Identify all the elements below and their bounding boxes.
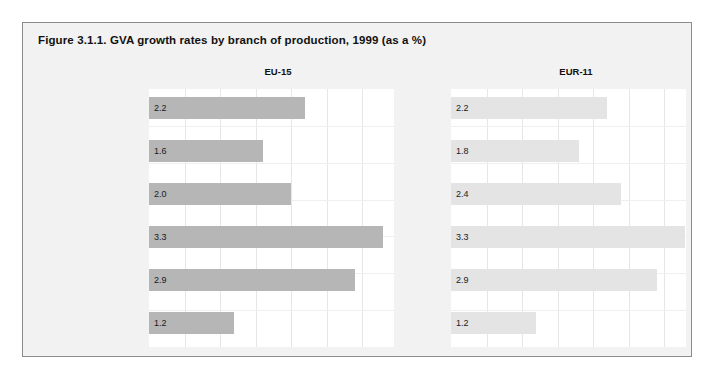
bar-value-label: 2.9 xyxy=(154,269,167,291)
bar-row: 1.2 xyxy=(451,312,686,334)
gridline-vertical xyxy=(664,89,665,347)
bar xyxy=(149,226,383,248)
bar xyxy=(149,183,291,205)
gridline-horizontal xyxy=(451,126,686,127)
gridline-vertical xyxy=(629,89,630,347)
bar-row: 2.2 xyxy=(451,97,686,119)
bar-row: 2.4 xyxy=(451,183,686,205)
gridline-vertical xyxy=(185,89,186,347)
plot-area-eu15: 2.21.62.03.32.91.2 xyxy=(149,89,394,347)
figure-title: Figure 3.1.1. GVA growth rates by branch… xyxy=(38,34,426,46)
bar xyxy=(451,226,685,248)
bar-value-label: 2.9 xyxy=(456,269,469,291)
bar xyxy=(149,269,355,291)
gridline-horizontal xyxy=(149,126,394,127)
bar xyxy=(149,97,305,119)
plot-area-eur11: 2.21.82.43.32.91.2 xyxy=(451,89,686,347)
gridline-vertical xyxy=(522,89,523,347)
bar-row: 2.9 xyxy=(149,269,394,291)
gridline-vertical xyxy=(256,89,257,347)
bar-row: 1.6 xyxy=(149,140,394,162)
bar xyxy=(451,269,657,291)
bar-value-label: 2.0 xyxy=(154,183,167,205)
bar-value-label: 2.2 xyxy=(154,97,167,119)
bar-value-label: 3.3 xyxy=(456,226,469,248)
bar-row: 3.3 xyxy=(451,226,686,248)
bar-value-label: 1.2 xyxy=(456,312,469,334)
gridline-horizontal xyxy=(451,310,686,311)
bar-value-label: 1.2 xyxy=(154,312,167,334)
bar-row: 1.2 xyxy=(149,312,394,334)
bar-row: 1.8 xyxy=(451,140,686,162)
bar-value-label: 1.6 xyxy=(154,140,167,162)
figure-container: Figure 3.1.1. GVA growth rates by branch… xyxy=(22,22,692,357)
panel-header-eu15: EU-15 xyxy=(153,66,403,77)
bar xyxy=(451,97,607,119)
gridline-vertical xyxy=(593,89,594,347)
gridline-horizontal xyxy=(451,163,686,164)
bar-value-label: 2.2 xyxy=(456,97,469,119)
gridline-horizontal xyxy=(149,163,394,164)
gridline-horizontal xyxy=(149,310,394,311)
gridline-vertical xyxy=(327,89,328,347)
bar-value-label: 2.4 xyxy=(456,183,469,205)
bar-value-label: 1.8 xyxy=(456,140,469,162)
bar-row: 2.2 xyxy=(149,97,394,119)
bar xyxy=(451,183,621,205)
bar-row: 2.9 xyxy=(451,269,686,291)
gridline-vertical xyxy=(362,89,363,347)
gridline-vertical xyxy=(291,89,292,347)
category-axis xyxy=(29,89,147,347)
bar-row: 2.0 xyxy=(149,183,394,205)
panel-header-eur11: EUR-11 xyxy=(451,66,701,77)
bar-value-label: 3.3 xyxy=(154,226,167,248)
bar xyxy=(451,140,579,162)
bar-row: 3.3 xyxy=(149,226,394,248)
gridline-vertical xyxy=(220,89,221,347)
gridline-vertical xyxy=(487,89,488,347)
gridline-vertical xyxy=(558,89,559,347)
